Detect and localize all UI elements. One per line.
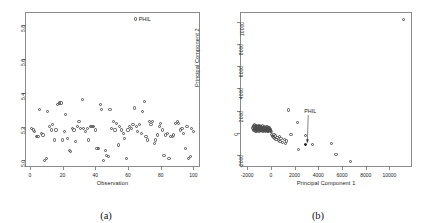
x-axis-tick bbox=[63, 167, 64, 170]
x-axis-tick bbox=[161, 167, 162, 170]
data-point bbox=[167, 157, 170, 160]
data-point bbox=[63, 130, 66, 133]
x-axis-tick bbox=[193, 167, 194, 170]
data-point bbox=[77, 120, 80, 123]
annotation-arrow-icon bbox=[212, 0, 424, 223]
data-point bbox=[133, 106, 136, 109]
x-axis-tick-label: 100 bbox=[189, 172, 197, 178]
data-point bbox=[161, 128, 164, 131]
x-axis-tick-label: 40 bbox=[93, 172, 99, 178]
x-axis-title-a: Observation bbox=[97, 180, 128, 186]
panel-b: Principal Component 2 Principal Componen… bbox=[212, 0, 424, 223]
data-point bbox=[166, 132, 169, 135]
data-point bbox=[162, 154, 165, 157]
data-point bbox=[117, 143, 120, 146]
plot-area-a bbox=[25, 12, 200, 167]
legend-label-phil: PHIL bbox=[139, 16, 151, 22]
data-point bbox=[54, 128, 57, 131]
y-axis-tick-label: 5.8 bbox=[20, 25, 26, 32]
data-point bbox=[158, 125, 161, 128]
data-point bbox=[184, 147, 187, 150]
data-point bbox=[53, 138, 56, 141]
data-point bbox=[146, 138, 149, 141]
x-axis-tick-label: 0 bbox=[29, 172, 32, 178]
data-point bbox=[45, 157, 48, 160]
y-axis-tick-label: 5.0 bbox=[20, 160, 26, 167]
data-point bbox=[36, 135, 39, 138]
data-point bbox=[94, 128, 97, 131]
y-axis-tick-label: 5.4 bbox=[20, 93, 26, 100]
data-point bbox=[156, 133, 159, 136]
data-point bbox=[59, 101, 62, 104]
data-point bbox=[153, 142, 156, 145]
x-axis-tick-label: 60 bbox=[125, 172, 131, 178]
x-axis-tick-label: 80 bbox=[158, 172, 164, 178]
annotation-label-phil: PHIL bbox=[304, 108, 316, 114]
data-point bbox=[72, 128, 75, 131]
data-point bbox=[122, 132, 125, 135]
data-point bbox=[81, 98, 84, 101]
figure-container: dCor jackknife replicate Observation PHI… bbox=[0, 0, 425, 223]
panel-a: dCor jackknife replicate Observation PHI… bbox=[0, 0, 212, 223]
data-point bbox=[50, 128, 53, 131]
data-point bbox=[61, 138, 64, 141]
data-point bbox=[113, 128, 116, 131]
legend-a: PHIL bbox=[134, 16, 151, 22]
data-point bbox=[66, 137, 69, 140]
data-point bbox=[130, 127, 133, 130]
y-axis-tick-label: 5.6 bbox=[20, 59, 26, 66]
data-point bbox=[108, 108, 111, 111]
data-point bbox=[102, 159, 105, 162]
data-point bbox=[135, 125, 138, 128]
y-axis-title-b: Principal Component 2 bbox=[194, 28, 200, 87]
caption-a: (a) bbox=[0, 210, 212, 221]
x-axis-tick bbox=[128, 167, 129, 170]
data-point bbox=[41, 133, 44, 136]
data-point bbox=[180, 127, 183, 130]
x-axis-tick bbox=[30, 167, 31, 170]
y-axis-tick-label: 5.2 bbox=[20, 127, 26, 134]
x-axis-tick-label: 20 bbox=[60, 172, 66, 178]
data-point bbox=[140, 132, 143, 135]
x-axis-tick bbox=[95, 167, 96, 170]
legend-marker-icon bbox=[134, 17, 137, 20]
data-point bbox=[104, 149, 107, 152]
data-point bbox=[143, 100, 146, 103]
data-point bbox=[185, 125, 188, 128]
